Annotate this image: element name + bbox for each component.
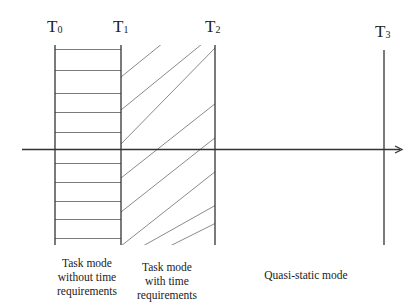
time-axis — [22, 146, 402, 153]
task-mode-without-time-label: Task mode without time requirements — [48, 256, 126, 298]
horizontal-line-fill — [55, 50, 121, 239]
time-marker-lines — [55, 45, 384, 245]
t3-label: T3 — [375, 23, 390, 40]
diagonal-hatch-fill — [121, 36, 216, 246]
task-mode-with-time-label: Task mode with time requirements — [128, 260, 206, 302]
t2-label: T2 — [205, 18, 220, 35]
quasi-static-mode-label: Quasi-static mode — [256, 268, 356, 282]
t0-label: T0 — [47, 18, 62, 35]
t1-label: T1 — [113, 18, 128, 35]
